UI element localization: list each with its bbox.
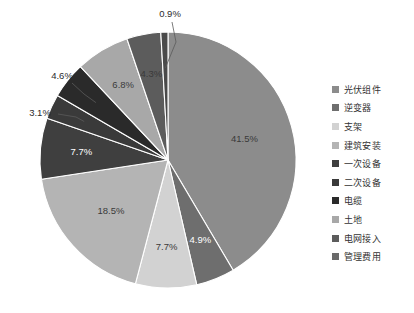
legend-swatch-icon [332,216,339,223]
pie-slice-label: 0.9% [159,8,181,19]
legend-item-label: 光伏组件 [344,83,381,96]
pie-slice-label: 4.9% [189,234,211,245]
legend-item[interactable]: 逆变器 [332,99,414,118]
legend-swatch-icon [332,179,339,186]
pie-slice-label: 4.3% [141,68,163,79]
legend-item[interactable]: 电网接入 [332,229,414,248]
pie-chart: 41.5%4.9%7.7%18.5%7.7%3.1%4.6%6.8%4.3%0.… [0,0,414,313]
legend-item-label: 电缆 [344,194,362,207]
pie-slice-label: 4.6% [51,70,73,81]
chart-legend: 光伏组件逆变器支架建筑安装一次设备二次设备电缆土地电网接入管理费用 [332,80,414,266]
legend-item[interactable]: 二次设备 [332,173,414,192]
legend-swatch-icon [332,104,339,111]
legend-item[interactable]: 土地 [332,210,414,229]
legend-item-label: 支架 [344,120,362,133]
legend-item-label: 电网接入 [344,232,381,245]
legend-item-label: 土地 [344,213,362,226]
pie-slice-label: 3.1% [29,107,51,118]
legend-item-label: 一次设备 [344,157,381,170]
legend-item-label: 建筑安装 [344,139,381,152]
legend-swatch-icon [332,142,339,149]
legend-item[interactable]: 电缆 [332,192,414,211]
legend-item-label: 逆变器 [344,101,372,114]
pie-slice-label: 6.8% [112,79,134,90]
legend-item[interactable]: 建筑安装 [332,136,414,155]
pie-slice-label: 41.5% [231,133,258,144]
legend-swatch-icon [332,235,339,242]
legend-swatch-icon [332,160,339,167]
legend-item[interactable]: 一次设备 [332,154,414,173]
legend-item-label: 管理费用 [344,250,381,263]
pie-slice-label: 7.7% [70,146,92,157]
legend-item[interactable]: 支架 [332,117,414,136]
pie-slice-label: 7.7% [156,241,178,252]
legend-item[interactable]: 管理费用 [332,247,414,266]
legend-item-label: 二次设备 [344,176,381,189]
legend-swatch-icon [332,123,339,130]
legend-swatch-icon [332,197,339,204]
legend-swatch-icon [332,86,339,93]
pie-slice-label: 18.5% [97,205,124,216]
legend-swatch-icon [332,253,339,260]
legend-item[interactable]: 光伏组件 [332,80,414,99]
